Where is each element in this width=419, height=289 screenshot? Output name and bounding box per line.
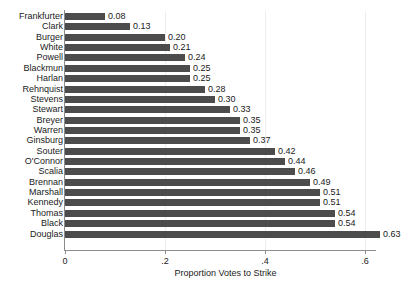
bar-value-label: 0.13 xyxy=(133,22,151,31)
category-label: Harlan xyxy=(36,74,63,83)
bar-value-label: 0.51 xyxy=(323,188,341,197)
bar-value-label: 0.46 xyxy=(298,167,316,176)
bar-value-label: 0.08 xyxy=(108,12,126,21)
x-tick-mark xyxy=(65,250,66,254)
category-label: Stevens xyxy=(30,95,63,104)
category-label: White xyxy=(40,43,63,52)
bar xyxy=(65,75,190,82)
category-label: Brennan xyxy=(29,178,63,187)
bar-value-label: 0.25 xyxy=(193,74,211,83)
bar xyxy=(65,137,250,144)
x-tick-label: .6 xyxy=(361,256,369,267)
category-label: Marshall xyxy=(29,188,63,197)
bar-value-label: 0.42 xyxy=(278,147,296,156)
x-tick-mark xyxy=(165,250,166,254)
bar xyxy=(65,117,240,124)
bar-value-label: 0.21 xyxy=(173,43,191,52)
bar-value-label: 0.24 xyxy=(188,53,206,62)
category-label: Souter xyxy=(36,147,63,156)
bar-value-label: 0.35 xyxy=(243,126,261,135)
category-label: Rehnquist xyxy=(22,85,63,94)
category-label: Douglas xyxy=(30,230,63,239)
gridline-.6 xyxy=(365,11,366,250)
bar-chart: 0.2.4.6 FrankfurterClarkBurgerWhitePowel… xyxy=(0,0,419,289)
category-label: Black xyxy=(41,219,63,228)
bar xyxy=(65,13,105,20)
bar-value-label: 0.54 xyxy=(338,209,356,218)
bar xyxy=(65,65,190,72)
bar-value-label: 0.37 xyxy=(253,136,271,145)
category-label: Blackmun xyxy=(23,64,63,73)
bar xyxy=(65,23,130,30)
category-label: Powell xyxy=(36,53,63,62)
x-tick-label: .4 xyxy=(261,256,269,267)
category-label: Frankfurter xyxy=(19,12,63,21)
bar xyxy=(65,148,275,155)
bar xyxy=(65,96,215,103)
bar xyxy=(65,54,185,61)
x-axis-title: Proportion Votes to Strike xyxy=(0,268,419,279)
x-axis-line xyxy=(64,250,376,251)
bar-value-label: 0.28 xyxy=(208,85,226,94)
bar xyxy=(65,106,230,113)
bar xyxy=(65,199,320,206)
bar xyxy=(65,86,205,93)
bar-value-label: 0.25 xyxy=(193,64,211,73)
bar xyxy=(65,220,335,227)
bar xyxy=(65,168,295,175)
bar-value-label: 0.63 xyxy=(383,230,401,239)
bar xyxy=(65,44,170,51)
category-label: Warren xyxy=(34,126,63,135)
x-tick-label: .2 xyxy=(161,256,169,267)
plot-area: 0.2.4.6 FrankfurterClarkBurgerWhitePowel… xyxy=(0,0,419,289)
category-label: Thomas xyxy=(30,209,63,218)
bar-value-label: 0.44 xyxy=(288,157,306,166)
bar xyxy=(65,179,310,186)
bar xyxy=(65,127,240,134)
x-tick-mark xyxy=(265,250,266,254)
category-label: Ginsburg xyxy=(26,136,63,145)
bar-value-label: 0.54 xyxy=(338,219,356,228)
bar xyxy=(65,34,165,41)
bar xyxy=(65,210,335,217)
bar xyxy=(65,189,320,196)
bar-value-label: 0.49 xyxy=(313,178,331,187)
bar xyxy=(65,158,285,165)
bar-value-label: 0.33 xyxy=(233,105,251,114)
x-tick-label: 0 xyxy=(62,256,67,267)
bar-value-label: 0.35 xyxy=(243,116,261,125)
bar-value-label: 0.51 xyxy=(323,198,341,207)
category-label: O'Connor xyxy=(25,157,63,166)
category-label: Stewart xyxy=(32,105,63,114)
category-label: Breyer xyxy=(36,116,63,125)
category-label: Kennedy xyxy=(27,198,63,207)
bar-value-label: 0.20 xyxy=(168,33,186,42)
x-tick-mark xyxy=(365,250,366,254)
bar-value-label: 0.30 xyxy=(218,95,236,104)
category-label: Clark xyxy=(42,22,63,31)
bar xyxy=(65,231,380,238)
category-label: Burger xyxy=(36,33,63,42)
category-label: Scalia xyxy=(38,167,63,176)
x-axis-title-text: Proportion Votes to Strike xyxy=(142,268,276,278)
